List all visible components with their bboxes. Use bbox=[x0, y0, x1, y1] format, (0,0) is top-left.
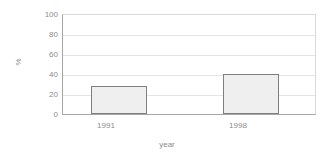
y-tick-label-20: 20 bbox=[18, 91, 58, 99]
gridline-60 bbox=[63, 55, 315, 56]
x-axis-title: year bbox=[0, 141, 334, 149]
y-tick-label-100: 100 bbox=[18, 11, 58, 19]
x-tick-label-1991: 1991 bbox=[74, 122, 138, 130]
y-tick-label-0: 0 bbox=[18, 111, 58, 119]
x-tick-label-1998: 1998 bbox=[206, 122, 270, 130]
y-tick-label-80: 80 bbox=[18, 31, 58, 39]
y-tick-label-60: 60 bbox=[18, 51, 58, 59]
y-tick-label-40: 40 bbox=[18, 71, 58, 79]
bar-1998[interactable] bbox=[223, 74, 279, 114]
bar-chart: % 100 80 60 40 20 0 1991 1998 year bbox=[0, 0, 334, 162]
plot-area bbox=[62, 14, 316, 115]
bar-1991[interactable] bbox=[91, 86, 147, 114]
gridline-80 bbox=[63, 35, 315, 36]
